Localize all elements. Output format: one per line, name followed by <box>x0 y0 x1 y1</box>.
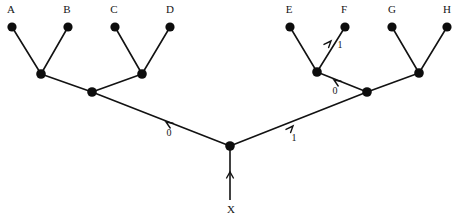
tree-edge <box>12 27 41 74</box>
label-ef-f: 1 <box>338 39 343 50</box>
leaf-label-b: B <box>63 3 70 15</box>
label-root-left: 0 <box>167 127 172 138</box>
label-root-right: 1 <box>292 132 297 143</box>
source-label-x: X <box>227 203 235 215</box>
leaf-node-b <box>63 22 72 31</box>
internal-node-gh <box>414 68 424 78</box>
leaf-label-f: F <box>341 3 347 15</box>
edge-arrowheads-group <box>166 41 341 133</box>
leaf-label-e: E <box>286 3 293 15</box>
tree-edge <box>92 92 230 146</box>
tree-edge <box>92 74 142 92</box>
internal-node-ab <box>36 69 46 79</box>
leaf-node-e <box>285 22 294 31</box>
leaf-node-d <box>165 22 174 31</box>
edge-labels-group: 0110 <box>167 39 343 143</box>
label-right-ef: 0 <box>333 85 338 96</box>
leaf-label-h: H <box>443 3 451 15</box>
tree-edge <box>317 72 367 92</box>
leaf-node-h <box>442 22 451 31</box>
tree-edge <box>230 92 367 146</box>
tree-edge <box>419 27 447 73</box>
root-node <box>225 141 235 151</box>
internal-node-ef <box>312 67 322 77</box>
leaf-node-g <box>387 22 396 31</box>
leaf-label-g: G <box>388 3 396 15</box>
edge-direction-arrowhead-icon <box>324 41 331 48</box>
tree-edge <box>41 74 92 92</box>
leaf-node-f <box>340 22 349 31</box>
tree-nodes-group <box>7 22 451 150</box>
source-label-group: X <box>227 203 235 215</box>
internal-node-left <box>87 87 97 97</box>
tree-edge <box>367 73 419 92</box>
tree-edge <box>290 27 317 72</box>
tree-edge <box>392 27 419 73</box>
tree-edge <box>115 27 142 74</box>
leaf-label-d: D <box>166 3 174 15</box>
internal-node-right <box>362 87 372 97</box>
node-labels-group: ABCDEFGH <box>7 3 451 15</box>
tree-edges-group <box>12 27 447 146</box>
root-source-stem-group <box>227 146 234 200</box>
tree-edge <box>41 27 68 74</box>
leaf-node-a <box>7 22 16 31</box>
binary-tree-diagram: ABCDEFGH 0110 X <box>0 0 458 220</box>
tree-edge <box>142 27 170 74</box>
internal-node-cd <box>137 69 147 79</box>
leaf-node-c <box>110 22 119 31</box>
leaf-label-c: C <box>110 3 117 15</box>
leaf-label-a: A <box>7 3 15 15</box>
diagram-canvas: ABCDEFGH 0110 X <box>0 0 458 220</box>
